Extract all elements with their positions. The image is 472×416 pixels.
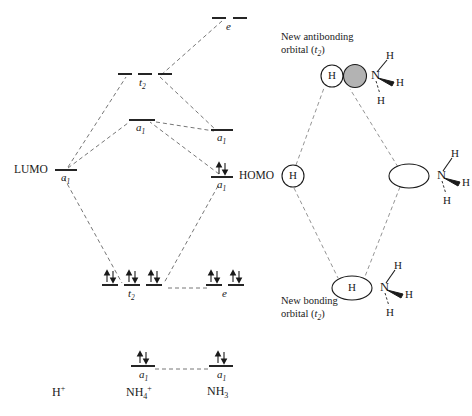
level-term-h-a1-lumo: a1: [61, 172, 70, 186]
bonding-node: [332, 270, 403, 306]
electron-pair: [209, 271, 220, 283]
h-atom-label: H: [348, 282, 356, 293]
level-term-nh4-a1-core: a1: [139, 369, 148, 383]
h-atom-label: H: [396, 77, 404, 88]
h-atom-label: H: [394, 260, 402, 271]
mo-diagram-figure: e t2 a1 a1 a1 a1 t2 e a1 a1 LUMO HOMO H+…: [0, 0, 472, 416]
line-h-to-bonding: [294, 188, 338, 278]
level-term-nh4-a1-antibonding: a1: [136, 122, 145, 136]
electron-pair: [231, 271, 242, 283]
h-atom-label: H: [289, 170, 297, 181]
orbital-connector-lines: [294, 88, 400, 279]
level-term-nh3-a1-homo: a1: [217, 179, 226, 193]
level-term-nh4-t2-bonding: t2: [128, 288, 135, 302]
electron-pair: [149, 271, 160, 283]
line-homo-to-a1star: [150, 122, 219, 174]
line-lumo-to-a1star: [68, 123, 128, 168]
line-lumo-to-t2star: [68, 77, 126, 167]
line-lumo-to-t2bonding: [64, 178, 122, 283]
species-label-h-plus: H+: [52, 385, 65, 398]
line-h-to-antibonding: [296, 88, 324, 165]
bonding-caption: New bonding orbital (t2): [281, 294, 338, 323]
level-term-nh3-a1-lone-pair: a1: [217, 132, 226, 146]
n-lone-pair-lobe: [389, 164, 429, 188]
h-atom-label: H: [451, 148, 459, 159]
electron-pair: [216, 352, 227, 364]
antibonding-caption: New antibonding orbital (t2): [281, 30, 354, 59]
level-term-nh3-a1-core: a1: [217, 369, 226, 383]
line-a1star-to-a1: [156, 122, 214, 131]
level-term-nh3-e-bonding: e: [222, 288, 227, 302]
species-label-nh4-plus: NH4+: [126, 385, 152, 401]
bonding-caption-line2: orbital (t2): [281, 307, 338, 323]
lumo-label: LUMO: [14, 164, 48, 176]
line-estar-to-t2star: [160, 21, 222, 76]
n-atom-label: N: [380, 281, 389, 294]
n-atom-label: N: [371, 69, 380, 82]
h-atom-label: H: [328, 70, 336, 81]
line-homo-to-t2bonding: [164, 186, 218, 283]
line-nh3-to-antibonding: [350, 89, 398, 167]
electron-pair: [105, 271, 116, 283]
antibonding-caption-line1: New antibonding: [281, 30, 354, 43]
level-term-nh3-e-antibonding: e: [226, 21, 231, 35]
diagram-canvas: [0, 0, 472, 416]
bonding-caption-line1: New bonding: [281, 294, 338, 307]
species-label-nh3: NH3: [207, 385, 228, 400]
orbital-cartoons: [282, 60, 460, 306]
n-atom-label: N: [437, 169, 446, 182]
h-atom-label: H: [405, 289, 413, 300]
h-atom-label: H: [377, 95, 385, 106]
h-atom-label: H: [386, 50, 394, 61]
h-atom-label: H: [443, 195, 451, 206]
level-term-nh4-t2-antibonding: t2: [139, 77, 146, 91]
h-atom-label: H: [462, 177, 470, 188]
homo-label: HOMO: [239, 170, 274, 182]
electron-pair: [217, 163, 228, 175]
n-orbital-lobe-shaded: [344, 65, 367, 88]
electron-pair: [138, 352, 149, 364]
electron-pair: [127, 271, 138, 283]
h-atom-label: H: [386, 307, 394, 318]
line-t2star-to-a1: [160, 77, 216, 130]
antibonding-caption-line2: orbital (t2): [281, 43, 354, 59]
